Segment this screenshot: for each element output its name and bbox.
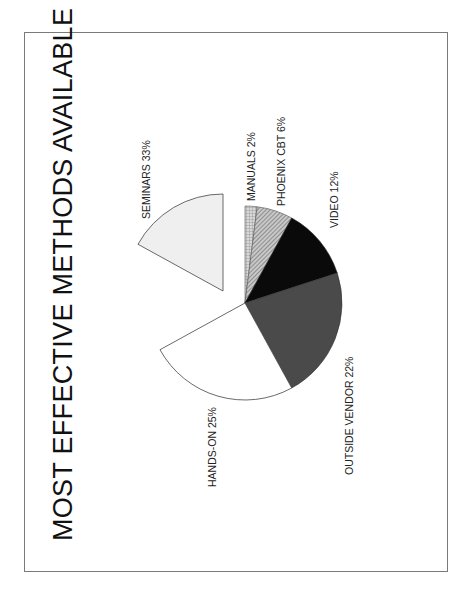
pie-chart (0, 0, 469, 600)
label-phoenix-cbt: PHOENIX CBT 6% (275, 117, 287, 206)
label-manuals: MANUALS 2% (245, 132, 257, 201)
label-seminars: SEMINARS 33% (140, 140, 152, 219)
label-outside-vendor: OUTSIDE VENDOR 22% (343, 357, 355, 475)
label-video: VIDEO 12% (328, 171, 340, 228)
label-hands-on: HANDS-ON 25% (206, 407, 218, 487)
